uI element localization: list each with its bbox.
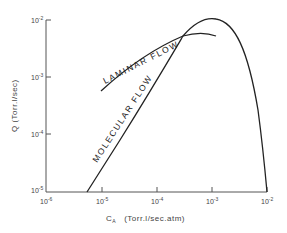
y-tick-label: 10-5 xyxy=(31,185,43,194)
y-tick-labels: 10-2 10-3 10-4 10-5 xyxy=(31,15,43,194)
axes xyxy=(46,20,267,192)
x-tick-labels: 10-6 10-5 10-4 10-3 10-2 xyxy=(40,196,273,205)
x-tick-label: 10-5 xyxy=(96,196,108,205)
y-tick-label: 10-2 xyxy=(31,15,43,24)
x-tick-label: 10-6 xyxy=(40,196,52,205)
x-tick-label: 10-3 xyxy=(206,196,218,205)
x-tick-label: 10-2 xyxy=(261,196,273,205)
y-axis-title: Q (Torr.l/sec) xyxy=(10,79,19,132)
x-tick-label: 10-4 xyxy=(151,196,163,205)
y-tick-label: 10-4 xyxy=(31,129,43,138)
laminar-flow-curve xyxy=(101,33,216,91)
molecular-flow-label: MOLECULAR FLOW xyxy=(90,73,154,164)
chart: 10-2 10-3 10-4 10-5 10-6 10-5 10-4 10-3 … xyxy=(0,0,287,233)
y-tick-label: 10-3 xyxy=(31,72,43,81)
x-axis-title: CA(Torr.l/sec.atm) xyxy=(106,214,185,224)
